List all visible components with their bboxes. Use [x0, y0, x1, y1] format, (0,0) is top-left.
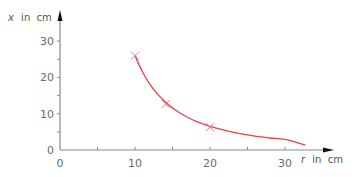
y-tick-label: 20: [40, 71, 54, 84]
y-tick-label: 0: [47, 144, 54, 157]
chart-canvas: 0102030 0102030 x in cm r in cm: [0, 0, 357, 177]
y-axis-variable: x: [7, 12, 14, 23]
data-point-x-marker-icon: [162, 100, 170, 108]
y-tick-label: 30: [40, 35, 54, 48]
axes: [58, 10, 335, 153]
x-axis-arrow-icon: [323, 148, 334, 153]
y-axis-unit: in cm: [21, 12, 52, 23]
x-tick-label: 0: [57, 157, 64, 170]
x-axis-unit: in cm: [312, 154, 343, 165]
fit-curve: [135, 56, 305, 145]
plot-area: [131, 52, 305, 145]
y-tick-label: 10: [40, 108, 54, 121]
x-axis-label: r in cm: [301, 154, 343, 165]
y-ticks: 0102030: [40, 35, 60, 157]
data-point-x-marker-icon: [131, 52, 139, 60]
y-axis-arrow-icon: [58, 10, 63, 21]
x-tick-label: 10: [128, 157, 142, 170]
x-axis-variable: r: [301, 154, 306, 165]
x-tick-label: 20: [203, 157, 217, 170]
y-axis-label: x in cm: [7, 12, 52, 23]
x-tick-label: 30: [278, 157, 292, 170]
